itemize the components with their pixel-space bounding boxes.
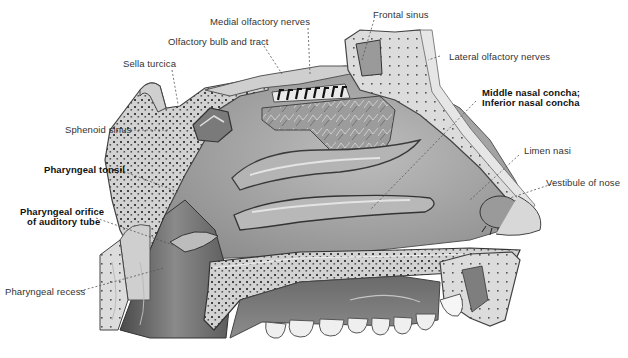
label-pharyngeal-tonsil: Pharyngeal tonsil [44, 164, 125, 175]
label-limen-nasi: Limen nasi [524, 145, 571, 156]
label-vestibule-of-nose: Vestibule of nose [546, 177, 620, 188]
leader-medial-olfactory-nerves [308, 28, 310, 74]
label-inferior-nasal-concha: Inferior nasal concha [482, 97, 580, 108]
leader-olfactory-bulb [264, 46, 282, 74]
label-olfactory-bulb-and-tract: Olfactory bulb and tract [168, 36, 269, 47]
label-frontal-sinus: Frontal sinus [373, 9, 429, 20]
label-pharyngeal-orifice-line2: of auditory tube [27, 216, 100, 227]
label-sphenoid-sinus: Sphenoid sinus [65, 124, 131, 135]
label-sella-turcica: Sella turcica [123, 58, 176, 69]
label-medial-olfactory-nerves: Medial olfactory nerves [210, 16, 310, 27]
label-pharyngeal-recess: Pharyngeal recess [5, 286, 85, 297]
anatomy-figure: Medial olfactory nerves Frontal sinus Ol… [0, 0, 628, 358]
label-lateral-olfactory-nerves: Lateral olfactory nerves [449, 51, 550, 62]
leader-sella-turcica [172, 70, 178, 104]
